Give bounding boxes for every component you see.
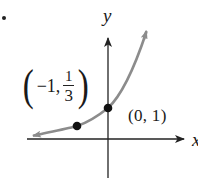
curve-left-arrow-icon — [33, 134, 40, 136]
point-label-neg1-onethird: ( −1, 1 3 ) — [21, 64, 91, 108]
open-paren: ( — [23, 64, 34, 108]
y-axis-label: y — [103, 6, 111, 25]
point-0-1 — [104, 104, 113, 113]
point-x-coordinate: −1, — [37, 77, 61, 95]
curve-right-arrow-icon — [144, 31, 147, 39]
exponential-graph-figure: y x ( −1, 1 3 ) (0, 1) — [0, 0, 198, 178]
fraction-numerator: 1 — [64, 69, 74, 85]
fraction-denominator: 3 — [65, 86, 74, 104]
close-paren: ) — [78, 64, 89, 108]
point-label-0-1: (0, 1) — [128, 107, 167, 124]
x-axis-label: x — [192, 130, 198, 149]
fraction-one-third: 1 3 — [63, 69, 74, 104]
point-neg1-onethird — [73, 122, 82, 131]
